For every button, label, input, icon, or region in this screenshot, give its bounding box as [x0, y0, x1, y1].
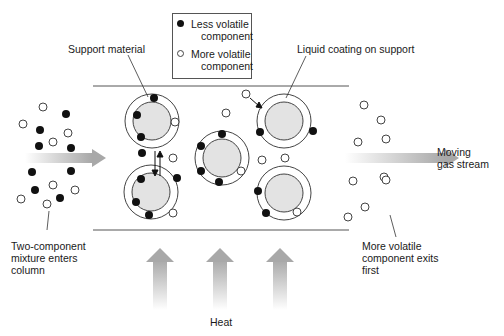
- exits-line1: More volatile: [362, 240, 438, 252]
- inlet-gas-arrow-icon: [25, 149, 106, 167]
- exits-line3: first: [362, 264, 438, 276]
- particle-bottom-left: [124, 165, 181, 219]
- heat-arrow-icon-2: [206, 248, 234, 310]
- legend-more-volatile-line1: More volatile: [191, 48, 253, 60]
- open-circle-icon: [177, 50, 184, 57]
- filled-circle-icon: [177, 20, 184, 27]
- legend: Less volatile component More volatile co…: [172, 13, 252, 79]
- liquid-coating-label: Liquid coating on support: [297, 43, 414, 55]
- particle-bottom-right: [254, 166, 311, 220]
- mixture-line1: Two-component: [11, 240, 86, 252]
- heat-arrow-icon-1: [146, 248, 174, 310]
- particle-top-right: [256, 94, 317, 148]
- legend-less-volatile-line1: Less volatile: [191, 18, 253, 30]
- exits-line2: component exits: [362, 252, 438, 264]
- legend-less-volatile-line2: component: [191, 30, 253, 42]
- mixture-line3: column: [11, 264, 86, 276]
- heat-label: Heat: [210, 316, 232, 328]
- mixture-line2: mixture enters: [11, 252, 86, 264]
- particle-center: [195, 130, 249, 186]
- moving-gas-line2: gas stream: [437, 158, 489, 170]
- particle-top-left: [125, 94, 179, 148]
- moving-gas-line1: Moving: [437, 146, 489, 158]
- mixture-enters-label: Two-component mixture enters column: [11, 240, 86, 276]
- heat-arrow-icon-3: [266, 248, 294, 310]
- moving-gas-label: Moving gas stream: [437, 146, 489, 170]
- exits-first-label: More volatile component exits first: [362, 240, 438, 276]
- legend-more-volatile-line2: component: [191, 60, 253, 72]
- support-material-label: Support material: [68, 43, 145, 55]
